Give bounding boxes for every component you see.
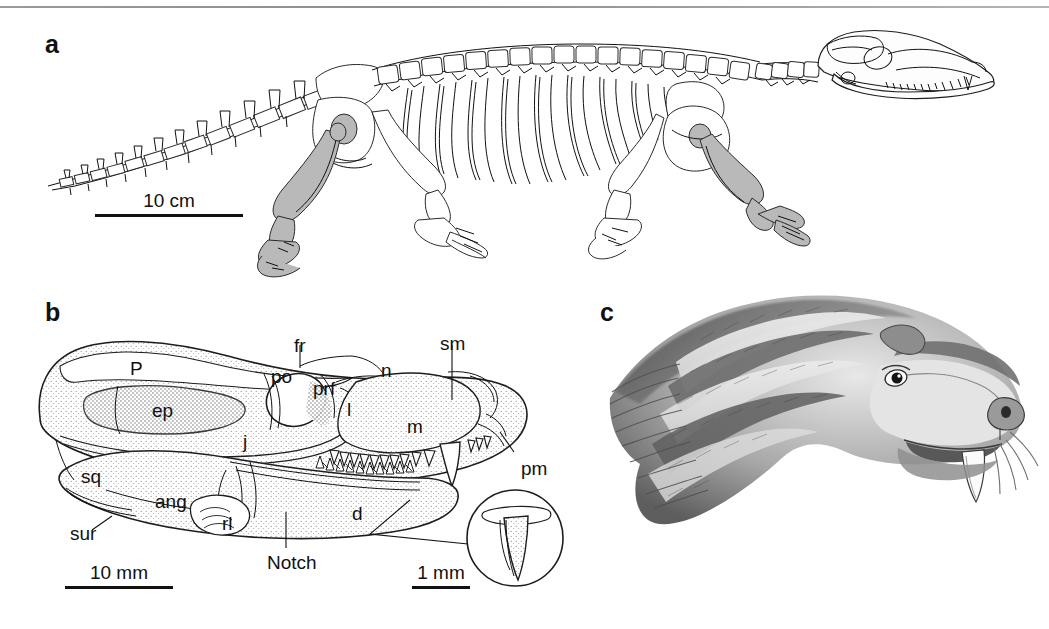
figure-root: a (0, 0, 1049, 629)
panel-c-head-illustration (0, 0, 1049, 629)
